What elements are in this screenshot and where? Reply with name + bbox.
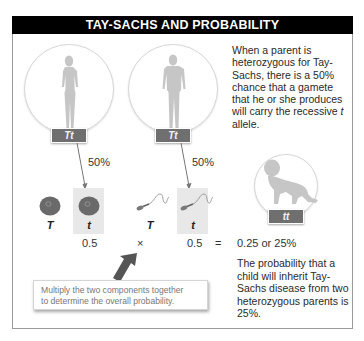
equation-right-value: 0.5 [187,237,202,249]
explanation-text: When a parent is heterozygous for Tay-Sa… [232,44,342,117]
egg-cell-icon [78,196,100,216]
child-genotype-label: tt [268,209,304,224]
sperm-cell-icon [136,192,172,214]
callout-line-1: Multiply the two components together [41,285,207,296]
heterozygous-explanation: When a parent is heterozygous for Tay-Sa… [232,44,352,130]
father-gamete-chance: 50% [192,156,214,168]
probability-conclusion: The probability that a child will inheri… [237,257,349,320]
sperm-allele-recessive: t [183,219,203,231]
sperm-cell-icon [180,192,216,214]
callout-line-2: to determine the overall probability. [41,296,207,307]
explanation-end: allele. [232,118,259,130]
sperm-allele-dominant: T [140,219,160,231]
equation-result: 0.25 or 25% [237,237,296,249]
egg-allele-recessive: t [79,219,99,231]
egg-allele-dominant: T [40,219,60,231]
crawling-baby-icon [258,158,320,208]
equation-equals: = [215,237,221,249]
egg-cell-icon [39,196,61,216]
explanation-allele: t [341,105,344,117]
equation-left-value: 0.5 [82,237,97,249]
equation-operator: × [137,237,143,249]
mother-gamete-chance: 50% [88,156,110,168]
multiply-callout: Multiply the two components together to … [33,280,208,310]
